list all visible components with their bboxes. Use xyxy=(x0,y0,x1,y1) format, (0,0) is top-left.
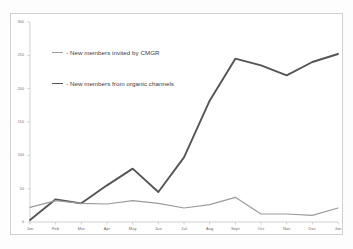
series-line-organic xyxy=(30,54,338,220)
y-tick-label: 0 xyxy=(10,220,24,224)
x-tick-label: Mar xyxy=(70,226,92,231)
x-tick-label: Oct xyxy=(250,226,272,231)
y-tick-label: 100 xyxy=(10,153,24,157)
legend-swatch-organic-icon xyxy=(52,83,63,84)
x-tick-marks xyxy=(30,222,338,225)
x-tick-label: Feb xyxy=(45,226,67,231)
x-tick-label: May xyxy=(122,226,144,231)
legend-label-invited: - New members invited by CMGR xyxy=(66,49,160,56)
x-tick-label: Dec xyxy=(301,226,323,231)
x-tick-label: Jul xyxy=(173,226,195,231)
x-tick-label: Nov xyxy=(276,226,298,231)
x-tick-label: Apr xyxy=(96,226,118,231)
legend-item-invited: - New members invited by CMGR xyxy=(52,49,160,56)
x-tick-label: Jan xyxy=(327,226,349,231)
x-tick-label: Jan xyxy=(19,226,41,231)
y-tick-label: 50 xyxy=(10,187,24,191)
x-tick-label: Jun xyxy=(147,226,169,231)
legend-item-organic: - New members from organic channels xyxy=(52,80,174,87)
y-tick-label: 250 xyxy=(10,53,24,57)
series-line-invited xyxy=(30,197,338,215)
y-tick-label: 200 xyxy=(10,87,24,91)
legend-swatch-invited-icon xyxy=(52,52,63,53)
y-tick-marks xyxy=(28,22,31,222)
x-tick-label: Sept xyxy=(224,226,246,231)
legend-label-organic: - New members from organic channels xyxy=(66,80,174,87)
x-tick-label: Aug xyxy=(199,226,221,231)
plot-svg xyxy=(0,0,353,249)
line-chart-figure: 050100150200250300 JanFebMarAprMayJunJul… xyxy=(0,0,353,249)
y-tick-label: 300 xyxy=(10,20,24,24)
y-tick-label: 150 xyxy=(10,120,24,124)
